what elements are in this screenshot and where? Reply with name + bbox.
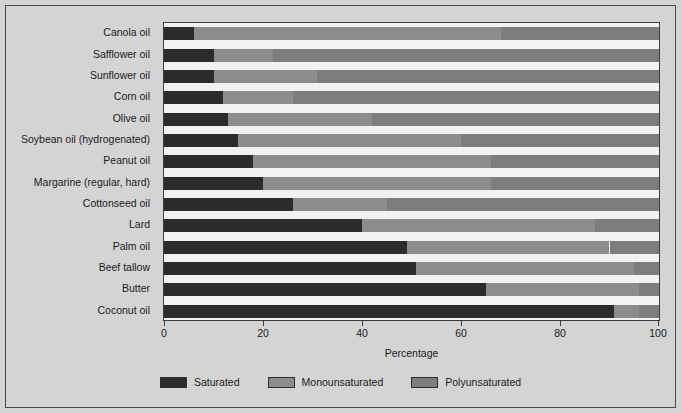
x-axis-tick [164,321,165,326]
bar-segment-polyunsaturated [634,262,659,275]
category-label: Canola oil [103,26,150,39]
bar-segment-saturated [164,49,214,62]
bar-row [164,219,659,232]
x-axis-tick [560,321,561,326]
category-axis-labels: Canola oilSafflower oilSunflower oilCorn… [0,22,157,321]
bar-segment-saturated [164,177,263,190]
bar-segment-monounsaturated [263,177,491,190]
bar-segment-saturated [164,70,214,83]
category-label: Peanut oil [103,154,150,167]
bar-segment-polyunsaturated [461,134,659,147]
legend-item: Monounsaturated [268,376,384,388]
bar-segment-saturated [164,198,293,211]
bar-segment-polyunsaturated [639,305,659,318]
bar-segment-polyunsaturated [639,283,659,296]
bar-segment-saturated [164,262,416,275]
bar-segment-monounsaturated [194,27,501,40]
category-label: Soybean oil (hydrogenated) [21,133,150,146]
bar-row [164,70,659,83]
bar-row [164,113,659,126]
x-axis-tick [461,321,462,326]
bar-segment-monounsaturated [362,219,595,232]
stacked-bars [164,23,659,320]
bar-segment-monounsaturated [214,49,273,62]
bar-segment-monounsaturated [293,198,387,211]
bar-row [164,155,659,168]
x-axis-tick [658,321,659,326]
category-label: Beef tallow [99,261,150,274]
bar-row [164,177,659,190]
bar-row [164,241,659,254]
category-label: Safflower oil [93,48,150,61]
bar-row [164,305,659,318]
bar-segment-saturated [164,241,407,254]
bar-segment-saturated [164,305,614,318]
category-label: Butter [122,282,150,295]
bar-segment-polyunsaturated [293,91,659,104]
bar-row [164,49,659,62]
bar-segment-polyunsaturated [491,177,659,190]
bar-segment-monounsaturated [407,241,610,254]
category-label: Cottonseed oil [83,197,150,210]
bar-segment-saturated [164,91,223,104]
x-axis-tick-label: 40 [356,327,368,339]
bar-segment-monounsaturated [614,305,639,318]
chart-legend: SaturatedMonounsaturatedPolyunsaturated [160,374,549,390]
bar-row [164,134,659,147]
category-label: Corn oil [114,90,150,103]
bar-row [164,27,659,40]
bar-segment-polyunsaturated [273,49,659,62]
bar-segment-monounsaturated [486,283,639,296]
category-label: Olive oil [113,112,150,125]
x-axis-tick-label: 0 [161,327,167,339]
chart-figure: Canola oilSafflower oilSunflower oilCorn… [0,0,681,413]
x-axis-tick [263,321,264,326]
bar-segment-monounsaturated [223,91,292,104]
x-axis-title: Percentage [163,347,660,359]
legend-item: Saturated [160,376,240,388]
category-label: Margarine (regular, hard) [34,176,150,189]
legend-swatch [411,377,438,388]
bar-segment-saturated [164,134,238,147]
category-label: Lard [129,218,150,231]
category-label: Sunflower oil [90,69,150,82]
bar-segment-monounsaturated [228,113,372,126]
bar-row [164,198,659,211]
category-label: Palm oil [113,240,150,253]
bar-segment-saturated [164,155,253,168]
bar-segment-polyunsaturated [387,198,659,211]
bar-segment-polyunsaturated [501,27,659,40]
category-label: Coconut oil [97,304,150,317]
x-axis-tick-label: 80 [554,327,566,339]
bar-segment-saturated [164,219,362,232]
legend-swatch [160,377,187,388]
bar-segment-polyunsaturated [491,155,659,168]
bar-segment-monounsaturated [238,134,461,147]
bar-row [164,91,659,104]
bar-segment-polyunsaturated [372,113,659,126]
x-axis-tick [362,321,363,326]
x-axis-tick-label: 100 [649,327,667,339]
bar-segment-saturated [164,113,228,126]
bar-segment-polyunsaturated [595,219,659,232]
bar-segment-saturated [164,283,486,296]
legend-label: Saturated [194,376,240,388]
bar-segment-monounsaturated [253,155,491,168]
x-axis-tick-label: 60 [455,327,467,339]
bar-segment-polyunsaturated [317,70,659,83]
legend-item: Polyunsaturated [411,376,521,388]
legend-label: Monounsaturated [302,376,384,388]
legend-label: Polyunsaturated [445,376,521,388]
bar-row [164,262,659,275]
x-axis-tick-label: 20 [257,327,269,339]
bar-segment-monounsaturated [214,70,318,83]
plot-area [163,22,660,321]
legend-swatch [268,377,295,388]
bar-row [164,283,659,296]
bar-segment-polyunsaturated [610,241,660,254]
bar-segment-saturated [164,27,194,40]
bar-segment-monounsaturated [416,262,634,275]
